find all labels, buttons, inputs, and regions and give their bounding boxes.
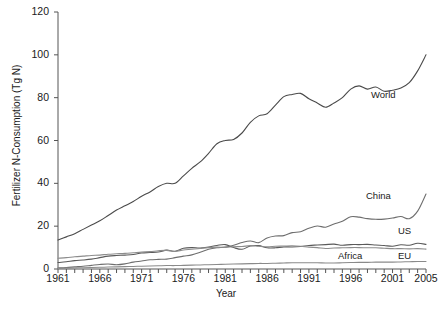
axis-ticks: [54, 12, 426, 273]
axis-lines: [58, 12, 426, 269]
series-line-eu: [58, 246, 426, 259]
series-line-china: [58, 194, 426, 268]
series-line-world: [58, 55, 426, 240]
data-series: [58, 55, 426, 269]
